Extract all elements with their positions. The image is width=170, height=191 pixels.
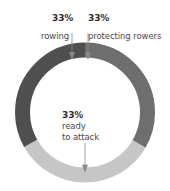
callout-rowing: 33% rowing xyxy=(41,13,73,44)
callout-ready-to-attack-percent: 33% xyxy=(62,110,99,121)
callout-ready-to-attack-label-line1: ready xyxy=(62,121,99,132)
callout-protecting-rowers: 33% protecting rowers xyxy=(88,13,161,44)
callout-protecting-rowers-label: protecting rowers xyxy=(88,31,161,41)
callout-protecting-rowers-percent: 33% xyxy=(88,13,161,24)
chart-figure: 33% rowing 33% protecting rowers 33% rea… xyxy=(0,0,170,191)
callout-ready-to-attack-label-line2: to attack xyxy=(62,132,99,143)
callout-rowing-label: rowing xyxy=(41,31,69,41)
callout-rowing-percent: 33% xyxy=(52,13,73,24)
callout-ready-to-attack: 33% ready to attack xyxy=(62,110,99,143)
